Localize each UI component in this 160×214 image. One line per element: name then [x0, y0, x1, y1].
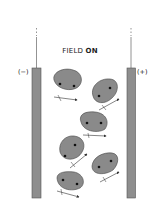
- positive-electrode: [127, 68, 136, 198]
- nucleus-icon: [98, 95, 101, 98]
- nucleus-icon: [109, 87, 112, 90]
- nucleus-icon: [64, 155, 67, 158]
- nucleus-icon: [74, 144, 77, 147]
- cell-1: [54, 69, 82, 101]
- cell-2: [92, 79, 119, 110]
- nucleus-icon: [62, 179, 65, 182]
- nucleus-icon: [59, 83, 62, 86]
- nucleus-icon: [86, 122, 89, 125]
- arrow-icon: [54, 97, 77, 100]
- negative-electrode: [32, 68, 41, 198]
- cell-4: [60, 136, 87, 168]
- diagram-graphic: [0, 0, 160, 214]
- arrow-icon: [83, 135, 106, 136]
- nucleus-icon: [110, 160, 113, 163]
- nucleus-icon: [76, 183, 79, 186]
- arrow-icon: [57, 191, 79, 197]
- cell-3: [80, 112, 107, 138]
- diagram: FIELD ON (−) (+): [0, 0, 160, 214]
- nucleus-icon: [73, 85, 76, 88]
- nucleus-icon: [100, 122, 103, 125]
- nucleus-icon: [98, 166, 101, 169]
- cell-6: [57, 172, 83, 197]
- cell-5: [92, 153, 119, 182]
